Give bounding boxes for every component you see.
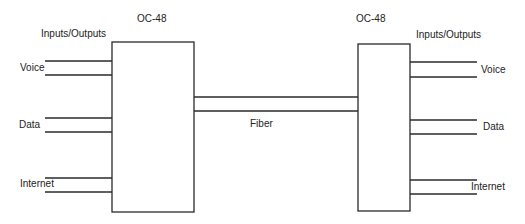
right-port-data-label: Data	[483, 121, 504, 133]
left-port-internet-label: Internet	[20, 178, 54, 190]
fiber-link-lines	[194, 97, 358, 111]
right-oc48-box	[358, 44, 410, 211]
left-internet-lines	[45, 178, 112, 192]
right-voice-lines	[410, 62, 477, 77]
right-data-lines	[410, 120, 477, 134]
left-port-voice-label: Voice	[20, 62, 44, 74]
left-node-title: OC-48	[137, 13, 166, 25]
fiber-link-label: Fiber	[250, 118, 273, 130]
right-port-internet-label: Internet	[471, 181, 505, 193]
right-node-title: OC-48	[356, 13, 385, 25]
left-oc48-box	[112, 42, 194, 212]
right-port-voice-label: Voice	[481, 64, 505, 76]
right-io-label: Inputs/Outputs	[416, 29, 481, 41]
left-voice-lines	[45, 61, 112, 75]
oc48-network-diagram: OC-48 Inputs/Outputs Voice Data Internet…	[0, 0, 525, 224]
left-io-label: Inputs/Outputs	[41, 28, 106, 40]
left-port-data-label: Data	[19, 119, 40, 131]
right-internet-lines	[410, 180, 477, 194]
left-data-lines	[45, 118, 112, 132]
